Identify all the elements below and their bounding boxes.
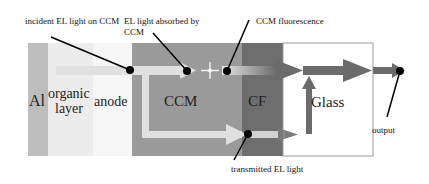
ccm-device-diagram: Al organic layer anode CCM CF Glass inci… xyxy=(0,0,429,184)
organic-label-line2: layer xyxy=(55,101,83,116)
anode-label: anode xyxy=(94,94,127,109)
transmitted-callout: transmitted EL light xyxy=(231,164,304,174)
transmitted-el-vertical xyxy=(142,75,149,137)
glass-beam xyxy=(303,66,348,75)
transmitted-el-beam-glass xyxy=(283,131,285,138)
al-label: Al xyxy=(29,92,46,109)
fluorescence-callout: CCM fluorescence xyxy=(256,16,324,26)
absorbed-pointer-dot xyxy=(183,67,191,75)
absorbed-callout-line1: EL light absorbed by xyxy=(124,16,200,26)
ccm-label: CCM xyxy=(164,93,197,109)
glass-label: Glass xyxy=(311,94,344,110)
output-pointer-dot xyxy=(396,67,404,75)
incident-el-beam xyxy=(56,66,186,75)
absorbed-callout-line2: CCM xyxy=(124,27,144,37)
fluorescence-pointer-dot xyxy=(223,67,231,75)
incident-pointer-dot xyxy=(126,66,134,74)
organic-label-line1: organic xyxy=(48,86,90,101)
incident-callout: incident EL light on CCM xyxy=(25,16,119,26)
cf-label: CF xyxy=(248,93,266,109)
output-pointer-line xyxy=(387,71,400,117)
output-callout: output xyxy=(372,125,396,135)
transmitted-pointer-dot xyxy=(244,130,252,138)
